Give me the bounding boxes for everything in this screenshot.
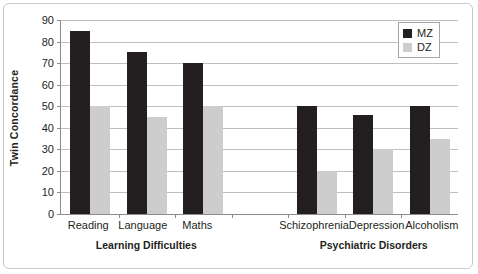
x-label-depression: Depression (349, 219, 405, 231)
bar-mz-maths (183, 63, 203, 214)
y-axis-tick-label: 60 (42, 79, 54, 90)
bar-group-language (119, 20, 176, 214)
y-axis-tick-label: 20 (42, 165, 54, 176)
y-axis-tick-label: 30 (42, 144, 54, 155)
legend-item-dz: DZ (403, 40, 433, 54)
bar-mz-depression (353, 115, 373, 214)
y-axis-tick-mark (57, 171, 61, 172)
bar-group-schizophrenia (288, 20, 345, 214)
x-label-language: Language (116, 219, 171, 231)
x-label-alcoholism: Alcoholism (404, 219, 459, 231)
bar-group-maths (175, 20, 232, 214)
x-label-schizophrenia: Schizophrenia (279, 219, 349, 231)
x-label-empty (225, 219, 280, 231)
bar-dz-maths (203, 106, 223, 214)
chart-screenshot: Twin Concordance 9080706050403020100 Rea… (0, 0, 478, 274)
y-axis-title: Twin Concordance (6, 20, 22, 215)
group-label-psychiatric-disorders: Psychiatric Disorders (288, 240, 459, 252)
x-axis-group-labels: Learning DifficultiesPsychiatric Disorde… (61, 240, 459, 252)
legend-label-dz: DZ (417, 42, 432, 53)
y-axis-tick-mark (57, 42, 61, 43)
bar-group-reading (62, 20, 119, 214)
y-axis-tick-mark (57, 214, 61, 215)
chart-legend: MZ DZ (398, 22, 440, 58)
y-axis-tick-label: 10 (42, 187, 54, 198)
legend-swatch-dz-icon (403, 43, 412, 52)
gridline (61, 214, 458, 215)
y-axis-title-text: Twin Concordance (8, 69, 20, 165)
y-axis-tick-label: 80 (42, 36, 54, 47)
bar-mz-alcoholism (410, 106, 430, 214)
bar-group-empty (232, 20, 289, 214)
y-axis-tick-mark (57, 63, 61, 64)
y-axis-tick-mark (57, 20, 61, 21)
bar-dz-depression (373, 149, 393, 214)
bar-dz-schizophrenia (317, 171, 337, 214)
y-axis-tick-mark (57, 85, 61, 86)
x-axis-tick-labels: ReadingLanguageMathsSchizophreniaDepress… (61, 219, 459, 231)
y-axis-tick-label: 50 (42, 101, 54, 112)
legend-item-mz: MZ (403, 26, 433, 40)
bar-dz-language (147, 117, 167, 214)
y-axis-tick-label: 90 (42, 15, 54, 26)
bar-mz-language (127, 52, 147, 214)
bar-group-depression (345, 20, 402, 214)
legend-label-mz: MZ (417, 28, 433, 39)
y-axis-tick-label: 40 (42, 122, 54, 133)
y-axis-tick-mark (57, 106, 61, 107)
x-label-maths: Maths (170, 219, 225, 231)
y-axis-tick-mark (57, 192, 61, 193)
y-axis-tick-mark (57, 128, 61, 129)
bar-mz-schizophrenia (297, 106, 317, 214)
y-axis-tick-mark (57, 149, 61, 150)
bar-dz-alcoholism (430, 139, 450, 214)
group-label-learning-difficulties: Learning Difficulties (61, 240, 232, 252)
bar-mz-reading (70, 31, 90, 214)
y-axis-tick-label: 0 (48, 209, 54, 220)
legend-swatch-mz-icon (403, 29, 412, 38)
bar-dz-reading (90, 106, 110, 214)
y-axis-tick-label: 70 (42, 58, 54, 69)
x-label-reading: Reading (61, 219, 116, 231)
group-label-empty (232, 240, 289, 252)
